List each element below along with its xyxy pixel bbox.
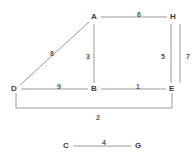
graph-edges-layer bbox=[0, 0, 196, 160]
graph-node-d: D bbox=[11, 85, 17, 93]
edge-weight-db: 9 bbox=[57, 83, 61, 90]
edge-weight-de: 2 bbox=[96, 114, 100, 121]
graph-node-c: C bbox=[63, 142, 69, 150]
edge-weight-be: 1 bbox=[136, 83, 140, 90]
edge-weight-ab: 3 bbox=[86, 53, 90, 60]
graph-node-h: H bbox=[170, 13, 176, 21]
edge-weight-he: 5 bbox=[161, 53, 165, 60]
edge-weight-h7: 7 bbox=[186, 53, 190, 60]
graph-node-e: E bbox=[169, 85, 174, 93]
graph-diagram-canvas: AHDBECG 638915742 bbox=[0, 0, 196, 160]
edge-line-group bbox=[20, 17, 180, 146]
graph-node-g: G bbox=[135, 142, 141, 150]
graph-node-b: B bbox=[91, 85, 97, 93]
edge-line-de-bracket bbox=[16, 93, 172, 108]
edge-weight-ah: 6 bbox=[137, 11, 141, 18]
edge-weight-da: 8 bbox=[50, 50, 54, 57]
edge-weight-cg: 4 bbox=[102, 139, 106, 146]
graph-node-a: A bbox=[91, 13, 97, 21]
edge-line-da bbox=[20, 22, 89, 85]
